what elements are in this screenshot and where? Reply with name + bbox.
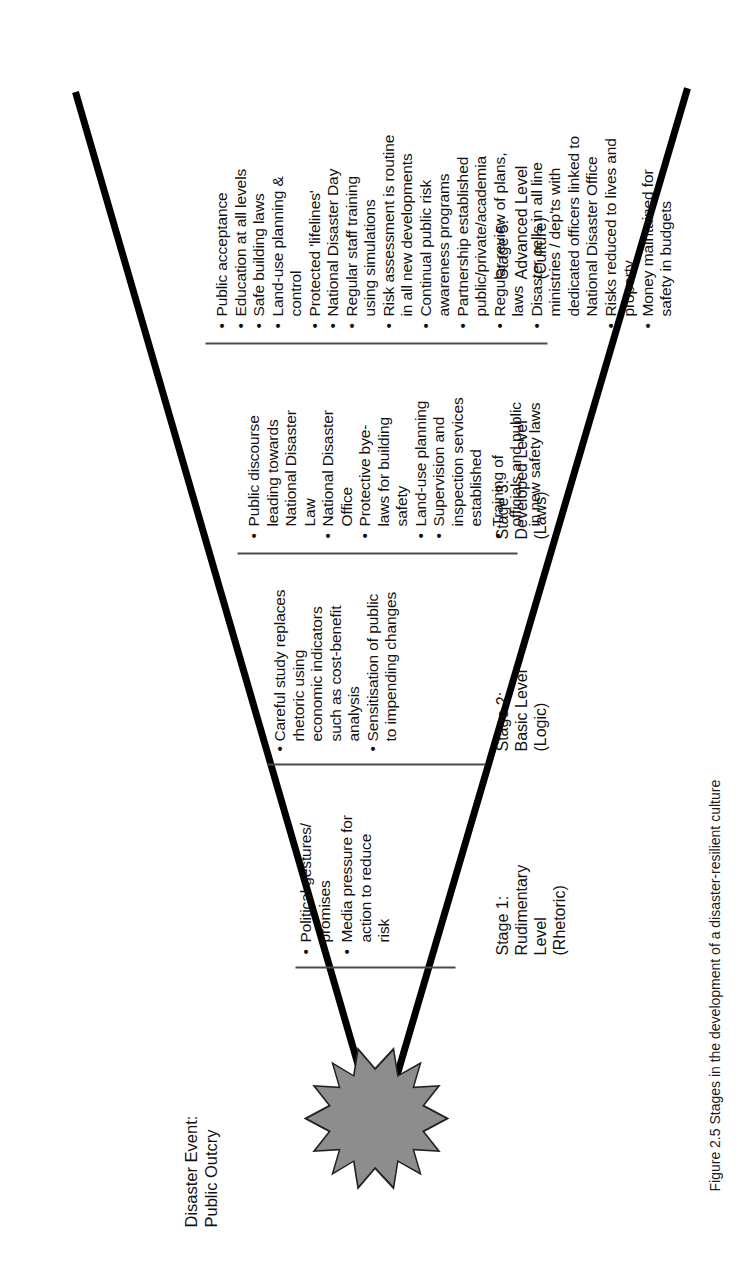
stage-2-label: Stage 2: Basic Level (Logic) (492, 669, 549, 751)
divider-stage1-end (295, 966, 455, 968)
bullet-dot: • (355, 533, 374, 538)
list-item: • Public discourse leading towards Natio… (244, 309, 318, 539)
list-item: • National Disaster Day (323, 67, 342, 329)
bullet-dot: • (453, 323, 472, 328)
list-item: • Protected 'lifelines' (305, 67, 324, 329)
bullet-dot: • (231, 323, 250, 328)
list-item: • Safe building laws (249, 67, 268, 329)
bullet-dot: • (323, 323, 342, 328)
bullet-dot: • (638, 323, 657, 328)
stage-1-bullets: • Political gestures/ promises • Media p… (296, 775, 393, 955)
rotated-page: Disaster Event: Public Outcry • Politica… (0, 0, 750, 1287)
stage-3-label: Stage 3: Developed Level (Laws) (492, 420, 549, 539)
stage-5-label: Stage 5: Advanced Level (Culture) (492, 165, 549, 279)
list-item: • Careful study replaces rhetoric using … (270, 541, 363, 751)
bullet-dot: • (268, 323, 287, 328)
list-item: • Risk assessment is routine in all new … (379, 67, 416, 329)
starburst-icon (307, 1049, 445, 1187)
bullet-dot: • (363, 746, 382, 751)
bullet-dot: • (249, 323, 268, 328)
bullet-dot: • (318, 533, 337, 538)
bullet-dot: • (601, 323, 620, 328)
bullet-dot: • (527, 323, 546, 328)
bullet-dot: • (490, 323, 509, 328)
list-item: • Media pressure for action to reduce ri… (337, 775, 393, 955)
bullet-dot: • (212, 323, 231, 328)
bullet-dot: • (244, 533, 263, 538)
bullet-dot: • (411, 533, 430, 538)
bullet-dot: • (296, 949, 315, 954)
list-item: • Political gestures/ promises (296, 775, 333, 955)
bullet-dot: • (416, 323, 435, 328)
bullet-dot: • (379, 323, 398, 328)
stage-2-bullets: • Careful study replaces rhetoric using … (270, 541, 400, 751)
list-item: • Money maintained for safety in budgets (638, 67, 675, 329)
list-item: • National Disaster Office (318, 309, 355, 539)
divider-stage2-end (267, 763, 485, 765)
stage-1-label: Stage 1: Rudimentary Level (Rhetoric) (492, 864, 568, 955)
list-item: • Sensitisation of public to impending c… (363, 541, 400, 751)
list-item: • Public acceptance (212, 67, 231, 329)
bullet-dot: • (270, 746, 289, 751)
list-item: • Protective bye- laws for building safe… (355, 309, 411, 539)
list-item: • Regular staff training using simulatio… (342, 67, 379, 329)
stage-5-bullets: • Public acceptance • Education at all l… (212, 67, 675, 329)
list-item: • Partnership established public/private… (453, 67, 490, 329)
list-item: • Land-use planning (411, 309, 430, 539)
list-item: • Continual public risk awareness progra… (416, 67, 453, 329)
list-item: • Supervision and inspection services es… (429, 309, 485, 539)
figure-canvas: Disaster Event: Public Outcry • Politica… (0, 0, 750, 1287)
disaster-event-label: Disaster Event: Public Outcry (180, 1115, 220, 1227)
bullet-dot: • (305, 323, 324, 328)
bullet-dot: • (337, 949, 356, 954)
list-item: • Education at all levels (231, 67, 250, 329)
list-item: • Risks reduced to lives and property (601, 67, 638, 329)
figure-caption: Figure 2.5 Stages in the development of … (706, 779, 723, 1191)
bullet-dot: • (342, 323, 361, 328)
list-item: • Land-use planning & control (268, 67, 305, 329)
bullet-dot: • (429, 533, 448, 538)
